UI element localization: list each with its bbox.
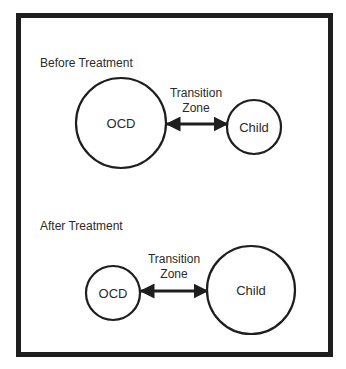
diagram-canvas: OCD Child Transition Zone OCD Child Tran… bbox=[0, 0, 346, 369]
before-transition-label-line2: Zone bbox=[182, 101, 210, 115]
after-child-label: Child bbox=[236, 283, 266, 298]
before-section: OCD Child Transition Zone bbox=[76, 78, 281, 168]
after-ocd-label: OCD bbox=[99, 286, 128, 301]
before-child-label: Child bbox=[239, 120, 269, 135]
after-section: OCD Child Transition Zone bbox=[86, 246, 295, 334]
after-transition-label-line1: Transition bbox=[148, 252, 200, 266]
before-ocd-label: OCD bbox=[107, 116, 136, 131]
after-transition-label-line2: Zone bbox=[160, 267, 188, 281]
before-transition-label-line1: Transition bbox=[170, 86, 222, 100]
